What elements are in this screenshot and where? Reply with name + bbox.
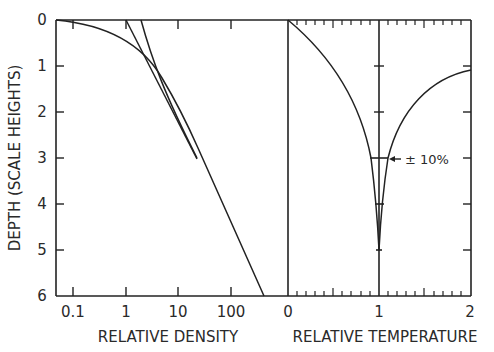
svg-text:5: 5	[37, 241, 47, 259]
svg-text:1: 1	[374, 303, 384, 321]
svg-text:0: 0	[283, 303, 293, 321]
figure: ± 10% 0 1 2 3 4 5 6 DEPTH (SCALE HEIGHTS…	[0, 0, 494, 352]
svg-text:4: 4	[37, 195, 47, 213]
svg-text:6: 6	[37, 287, 47, 305]
x-tick-labels-left: 0.1 1 10 100	[61, 303, 245, 321]
density-curves	[56, 20, 264, 296]
density-curve-main	[56, 20, 264, 296]
x-axis-label-right: RELATIVE TEMPERATURE	[293, 328, 478, 346]
svg-text:2: 2	[465, 303, 475, 321]
svg-text:0: 0	[37, 11, 47, 29]
temperature-left-branch	[288, 20, 379, 250]
svg-text:3: 3	[37, 149, 47, 167]
svg-text:10: 10	[168, 303, 187, 321]
x-ticks-left	[73, 20, 231, 296]
x-tick-labels-right: 0 1 2	[283, 303, 475, 321]
annotation-arrow	[389, 156, 401, 162]
y-axis-label: DEPTH (SCALE HEIGHTS)	[6, 65, 24, 252]
svg-text:0.1: 0.1	[61, 303, 85, 321]
svg-text:2: 2	[37, 103, 47, 121]
svg-text:1: 1	[121, 303, 131, 321]
y-ticks-left	[56, 66, 64, 250]
svg-text:1: 1	[37, 57, 47, 75]
y-tick-labels: 0 1 2 3 4 5 6	[37, 11, 47, 305]
svg-text:100: 100	[217, 303, 246, 321]
x-axis-label-left: RELATIVE DENSITY	[98, 328, 239, 346]
annotation-label: ± 10%	[405, 152, 449, 167]
